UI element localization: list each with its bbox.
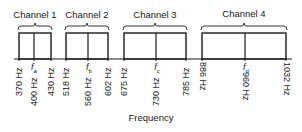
- tick-label-785: 785 Hz: [181, 67, 191, 96]
- center-symbol-fc: fc: [154, 62, 160, 74]
- tick-label-960: 960 Hz: [241, 72, 251, 101]
- center-symbol-fa: fa: [31, 62, 37, 74]
- channel-4-brace: [201, 23, 287, 30]
- frequency-channel-diagram: Channel 1 Channel 2 Channel 3 Channel 4 …: [0, 0, 302, 132]
- channel-4-band-box: [202, 33, 286, 59]
- tick-label-886: 886 Hz: [198, 62, 208, 91]
- channel-3-brace: [123, 23, 187, 30]
- channel-1-band-box: [19, 33, 51, 59]
- channel-2-band-box: [66, 33, 108, 59]
- channel-3-band-box: [124, 33, 186, 59]
- tick-label-730: 730 Hz: [151, 77, 161, 106]
- tick-label-675: 675 Hz: [119, 67, 129, 96]
- tick-label-518: 518 Hz: [61, 67, 71, 96]
- tick-label-430: 430 Hz: [46, 67, 56, 96]
- channel-3-label: Channel 3: [133, 9, 176, 20]
- channel-1-brace: [18, 23, 52, 30]
- tick-label-560: 560 Hz: [83, 77, 93, 106]
- channel-2-brace: [65, 23, 109, 30]
- channel-4-label: Channel 4: [222, 8, 265, 19]
- tick-label-602: 602 Hz: [103, 67, 113, 96]
- channel-2-label: Channel 2: [65, 9, 108, 20]
- tick-label-370: 370 Hz: [14, 67, 24, 96]
- tick-label-1032: 1032 Hz: [282, 62, 292, 96]
- center-symbol-fb: fb: [86, 62, 92, 74]
- frequency-axis-label: Frequency: [129, 112, 174, 123]
- channel-1-label: Channel 1: [13, 9, 56, 20]
- tick-label-400: 400 Hz: [29, 77, 39, 106]
